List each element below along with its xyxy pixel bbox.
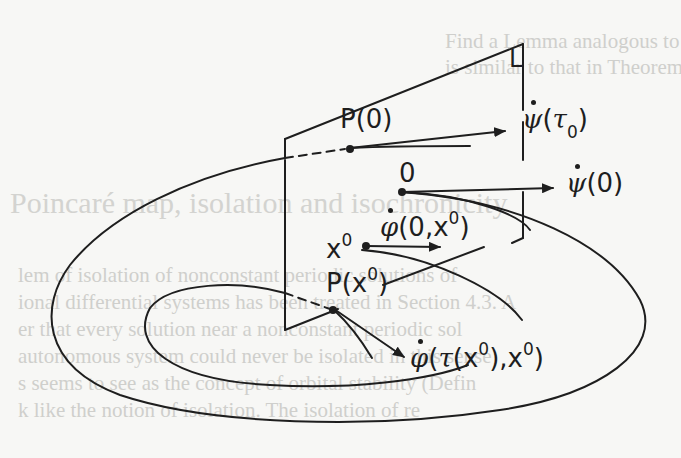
point-Px0 [329, 306, 337, 314]
label-psi-tau0-close: ) [578, 104, 588, 134]
label-origin: 0 [399, 160, 416, 186]
label-phi-0-x0-fn: φ [380, 214, 398, 240]
label-phi-0-x0-sup: 0 [449, 208, 460, 228]
label-phi-0-x0-text: (0,x [398, 212, 448, 242]
label-phi-tau-x0-arg: τ [438, 343, 452, 373]
label-phi-0-x0: φ(0,x0) [380, 212, 470, 240]
label-P0: P(0) [340, 106, 393, 132]
label-Px0-base: P(x [326, 268, 367, 298]
label-phi-tau-x0-mid2: ),x [489, 343, 523, 373]
label-phi-tau-x0: φ(τ(x0),x0) [410, 343, 544, 371]
label-phi-tau-x0-mid: (x [453, 343, 479, 373]
label-phi-0-x0-close: ) [459, 212, 469, 242]
label-x0-base: x [326, 234, 341, 264]
label-phi-tau-x0-open: ( [428, 343, 438, 373]
label-phi-tau-x0-close: ) [534, 343, 544, 373]
label-psi-tau0: ψ(τ0) [522, 106, 588, 137]
point-P0 [346, 145, 354, 153]
vector-phi-0-x0 [366, 246, 440, 247]
label-psi-0-fn: ψ [566, 170, 586, 196]
vector-phi-tau-x0 [334, 309, 404, 357]
label-psi-tau0-sub: 0 [567, 122, 578, 142]
label-psi-tau0-open: ( [542, 104, 552, 134]
label-x0: x0 [326, 234, 352, 262]
point-origin [398, 188, 406, 196]
plane-label-L: L [509, 47, 522, 71]
point-x0 [362, 242, 370, 250]
label-psi-0-text: (0) [586, 168, 623, 198]
label-phi-tau-x0-sup1: 0 [478, 339, 489, 359]
label-Px0-sup: 0 [367, 264, 378, 284]
label-psi-tau0-fn: ψ [522, 106, 542, 132]
vector-psi-0 [402, 188, 553, 192]
label-phi-tau-x0-fn: φ [410, 345, 428, 371]
label-x0-sup: 0 [341, 230, 352, 250]
label-phi-tau-x0-sup2: 0 [523, 339, 534, 359]
label-Px0-close: ) [378, 268, 388, 298]
label-Px0: P(x0) [326, 268, 388, 296]
label-psi-tau0-arg: τ [553, 104, 567, 134]
label-psi-0: ψ(0) [566, 170, 623, 196]
poincare-map-diagram [0, 0, 681, 458]
